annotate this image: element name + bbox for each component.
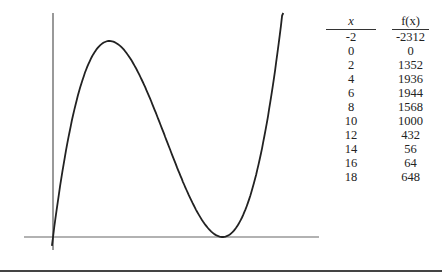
function-curve [52, 13, 283, 246]
table-cell-x: 16 [326, 156, 376, 170]
table-cell-x: 2 [326, 58, 376, 72]
table-cell-x: 0 [326, 44, 376, 58]
table-cell-fx: 1944 [392, 86, 429, 100]
fx-column: f(x) -2312013521936194415681000432566464… [392, 14, 429, 184]
table-cell-fx: 0 [392, 44, 429, 58]
table-cell-fx: 648 [392, 170, 429, 184]
table-cell-x: 10 [326, 114, 376, 128]
x-header: x [326, 14, 376, 30]
table-cell-fx: 432 [392, 128, 429, 142]
table-cell-x: 12 [326, 128, 376, 142]
table-cell-x: 18 [326, 170, 376, 184]
x-column: x -2024681012141618 [326, 14, 376, 184]
table-cell-x: -2 [326, 30, 376, 44]
table-cell-x: 4 [326, 72, 376, 86]
table-cell-fx: 1568 [392, 100, 429, 114]
table-cell-fx: 1936 [392, 72, 429, 86]
table-cell-fx: -2312 [392, 30, 429, 44]
table-cell-x: 6 [326, 86, 376, 100]
table-cell-x: 14 [326, 142, 376, 156]
table-cell-x: 8 [326, 100, 376, 114]
table-cell-fx: 64 [392, 156, 429, 170]
fx-header: f(x) [392, 14, 429, 30]
bottom-rule [0, 270, 442, 272]
table-cell-fx: 56 [392, 142, 429, 156]
table-cell-fx: 1000 [392, 114, 429, 128]
table-cell-fx: 1352 [392, 58, 429, 72]
